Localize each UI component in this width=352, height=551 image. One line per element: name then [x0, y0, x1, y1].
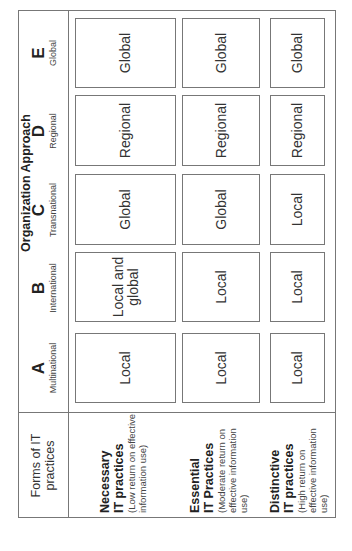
cell-essential-c: Global: [182, 174, 260, 245]
column-letter: D: [30, 91, 48, 171]
cell-distinctive-c: Local: [270, 174, 325, 245]
column-header-e: E Global: [30, 13, 59, 93]
corner-label: Forms of IT practices: [18, 413, 68, 518]
column-name: Multinational: [48, 328, 59, 408]
row-description: (Low return on effective information use…: [126, 414, 148, 513]
column-name: International: [48, 248, 59, 328]
row-subtitle: IT practices: [282, 413, 296, 513]
cell-necessary-c: Global: [75, 174, 176, 245]
row-description: (High return on effective information us…: [296, 428, 329, 513]
row-label-distinctive: Distinctive IT practices (High return on…: [268, 413, 329, 513]
column-header-d: D Regional: [30, 91, 59, 171]
column-name: Global: [48, 13, 59, 93]
column-header-c: C Transnational: [30, 170, 59, 250]
cell-necessary-b: Local and global: [75, 252, 176, 322]
cell-distinctive-b: Local: [270, 252, 325, 322]
row-title: Necessary: [98, 413, 112, 513]
row-subtitle: IT practices: [112, 413, 126, 513]
row-title: Distinctive: [268, 413, 282, 513]
row-title: Essential: [188, 413, 202, 513]
column-name: Transnational: [48, 170, 59, 250]
column-letter: B: [30, 248, 48, 328]
cell-distinctive-e: Global: [270, 18, 325, 88]
cell-essential-d: Regional: [182, 95, 260, 166]
cell-necessary-a: Local: [75, 333, 176, 403]
column-letter: E: [30, 13, 48, 93]
row-description: (Moderate return on effective informatio…: [216, 428, 249, 513]
column-letter: C: [30, 170, 48, 250]
row-label-essential: Essential IT Practices (Moderate return …: [188, 413, 249, 513]
column-header-a: A Multinational: [30, 328, 59, 408]
column-header-b: B International: [30, 248, 59, 328]
cell-essential-b: Local: [182, 252, 260, 322]
cell-essential-a: Local: [182, 333, 260, 403]
cell-distinctive-a: Local: [270, 333, 325, 403]
row-subtitle: IT Practices: [202, 413, 216, 513]
column-letter: A: [30, 328, 48, 408]
cell-necessary-d: Regional: [75, 95, 176, 166]
row-label-necessary: Necessary IT practices (Low return on ef…: [98, 413, 148, 513]
header-divider: [68, 10, 69, 518]
cell-essential-e: Global: [182, 18, 260, 88]
column-name: Regional: [48, 91, 59, 171]
cell-distinctive-d: Regional: [270, 95, 325, 166]
cell-necessary-e: Global: [75, 18, 176, 88]
rotated-table-diagram: Forms of IT practices Organization Appro…: [18, 10, 336, 518]
